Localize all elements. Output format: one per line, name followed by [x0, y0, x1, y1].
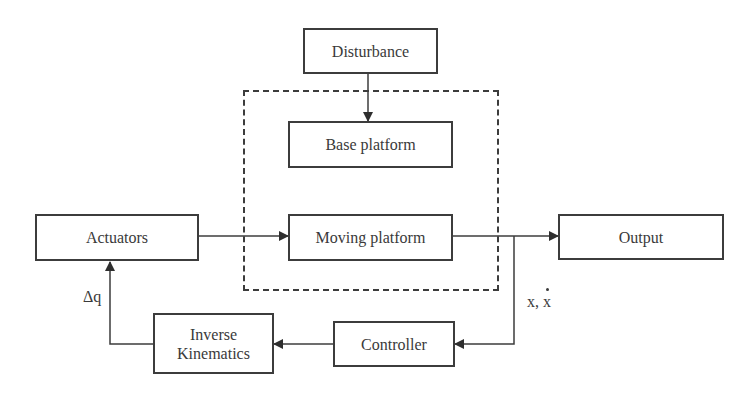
output-block: Output: [558, 214, 724, 260]
inverse-kinematics-label-line2: Kinematics: [177, 344, 250, 363]
state-x-text: x,: [527, 293, 539, 310]
actuators-block: Actuators: [35, 214, 199, 261]
controller-block: Controller: [333, 321, 455, 367]
inverse-kinematics-label-line1: Inverse: [190, 325, 237, 344]
disturbance-label: Disturbance: [332, 42, 409, 61]
base-platform-label: Base platform: [325, 135, 415, 154]
disturbance-block: Disturbance: [303, 28, 438, 74]
arrow-ik-to-actuators: [110, 262, 153, 344]
delta-q-text: Δq: [83, 288, 101, 305]
controller-label: Controller: [361, 335, 427, 354]
delta-q-signal-label: Δq: [83, 288, 101, 306]
actuators-label: Actuators: [86, 228, 148, 247]
output-label: Output: [619, 228, 663, 247]
state-signal-label: x, x: [527, 293, 551, 311]
base-platform-block: Base platform: [288, 121, 453, 168]
moving-platform-label: Moving platform: [316, 228, 426, 247]
inverse-kinematics-block: Inverse Kinematics: [153, 313, 274, 374]
moving-platform-block: Moving platform: [288, 214, 453, 261]
state-xdot-text: x: [543, 293, 551, 311]
